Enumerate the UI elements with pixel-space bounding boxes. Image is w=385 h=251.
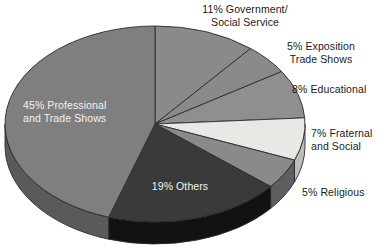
label-others: 19% Others bbox=[128, 180, 232, 193]
label-exposition-trade-shows: 5% Exposition Trade Shows bbox=[262, 40, 380, 65]
label-religious: 5% Religious bbox=[302, 186, 385, 199]
pie-chart-canvas bbox=[0, 0, 385, 251]
label-professional-and-trade-shows: 45% Professional and Trade Shows bbox=[23, 99, 153, 124]
label-educational: 8% Educational bbox=[292, 83, 385, 96]
label-fraternal-and-social: 7% Fraternal and Social bbox=[311, 127, 385, 152]
label-government-social-service: 11% Government/ Social Service bbox=[185, 3, 305, 28]
pie-chart: 11% Government/ Social Service 5% Exposi… bbox=[0, 0, 385, 251]
